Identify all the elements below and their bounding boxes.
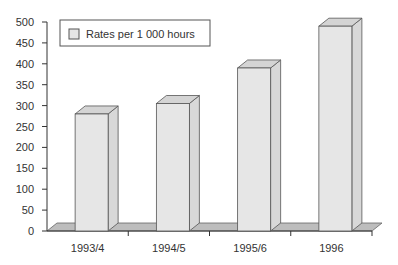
x-tick-label: 1993/4	[71, 242, 105, 254]
bars	[75, 18, 362, 231]
x-tick-label: 1994/5	[152, 242, 186, 254]
bar-1993/4	[75, 106, 118, 231]
y-tick-label: 300	[16, 100, 34, 112]
x-tick-label: 1996	[319, 242, 343, 254]
y-tick-label: 400	[16, 58, 34, 70]
y-tick-label: 350	[16, 79, 34, 91]
bar-1994/5	[156, 96, 199, 231]
y-tick-label: 200	[16, 141, 34, 153]
y-tick-label: 500	[16, 16, 34, 28]
y-tick-label: 150	[16, 162, 34, 174]
y-tick-label: 450	[16, 37, 34, 49]
bar-chart: 0501001502002503003504004505001993/41994…	[0, 0, 398, 265]
x-tick-label: 1995/6	[233, 242, 267, 254]
y-tick-label: 100	[16, 183, 34, 195]
legend: Rates per 1 000 hours	[60, 20, 210, 46]
y-tick-label: 50	[22, 204, 34, 216]
bar-1995/6	[238, 60, 281, 231]
y-tick-label: 250	[16, 121, 34, 133]
legend-swatch	[69, 29, 79, 39]
legend-label: Rates per 1 000 hours	[86, 28, 195, 40]
bar-1996	[319, 18, 362, 231]
y-tick-label: 0	[28, 225, 34, 237]
